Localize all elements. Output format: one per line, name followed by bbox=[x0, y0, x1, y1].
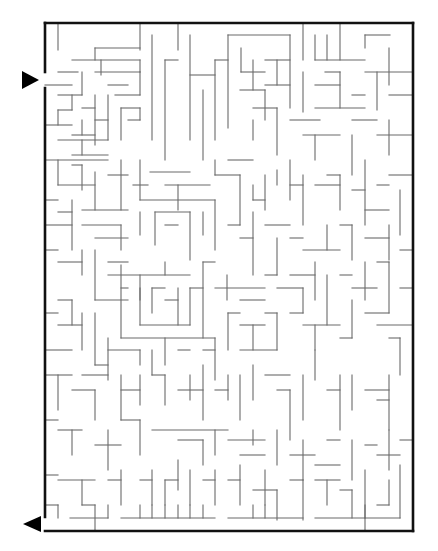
maze-walls bbox=[45, 23, 413, 531]
maze-border bbox=[45, 23, 413, 531]
maze-board bbox=[0, 0, 438, 551]
exit-arrow-icon bbox=[23, 516, 41, 532]
entrance-arrow-icon bbox=[22, 71, 39, 89]
